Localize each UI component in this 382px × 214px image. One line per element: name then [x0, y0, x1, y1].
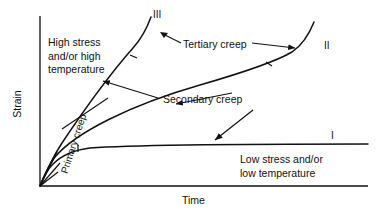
stage-label-one: I — [331, 130, 334, 141]
low-stress-leader-line — [215, 110, 253, 140]
high-stress-line-1: High stress — [48, 36, 105, 50]
high-stress-line-2: and/or high — [48, 50, 105, 64]
y-axis-title: Strain — [11, 74, 23, 134]
tertiary-leader-right — [252, 43, 295, 48]
secondary-leader-upper — [103, 81, 158, 98]
x-axis-title: Time — [182, 194, 205, 206]
stage-label-three: III — [153, 9, 161, 20]
tertiary-leader-left-arrow — [160, 32, 168, 38]
high-stress-line-3: temperature — [48, 63, 105, 77]
low-stress-annotation: Low stress and/or low temperature — [240, 153, 323, 180]
tertiary-leader-right-line — [252, 43, 295, 48]
tertiary-leader-left — [160, 32, 181, 43]
secondary-creep-annotation: Secondary creep — [163, 93, 242, 107]
creep-curve-plot — [0, 0, 382, 214]
low-stress-line-1: Low stress and/or — [240, 153, 323, 167]
stage-label-two: II — [324, 40, 330, 51]
low-stress-line-2: low temperature — [240, 167, 323, 181]
secondary-leader-upper-line — [103, 81, 158, 98]
curve-iii-stage-tick — [130, 55, 137, 58]
tertiary-creep-annotation: Tertiary creep — [183, 38, 247, 52]
creep-curve-figure: Strain Time High stress and/or high temp… — [0, 0, 382, 214]
high-stress-annotation: High stress and/or high temperature — [48, 36, 105, 77]
low-stress-leader — [215, 110, 253, 140]
primary-creep-strokes — [40, 152, 60, 186]
